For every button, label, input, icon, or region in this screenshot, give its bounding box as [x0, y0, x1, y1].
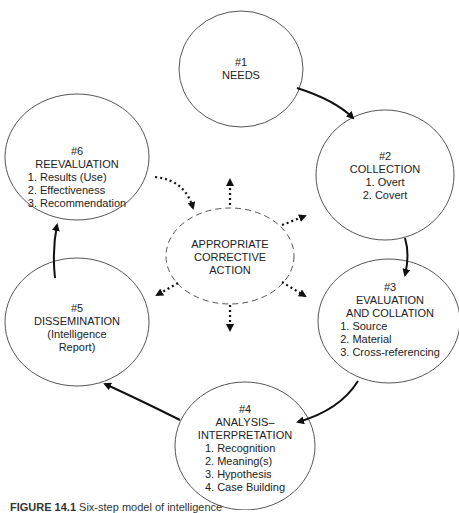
evaluation-item: 2. Material — [340, 333, 440, 346]
needs-label: #1 NEEDS — [191, 56, 291, 82]
dissemination-sub-1: (Intelligence — [27, 328, 127, 341]
dotted-arrow-upright — [282, 216, 305, 225]
dotted-arrow-reevaluation-to-center — [155, 177, 193, 208]
analysis-title-2: INTERPRETATION — [185, 429, 305, 442]
collection-label: #2 COLLECTION 1. Overt 2. Covert — [335, 150, 435, 202]
arrow-needs-to-collection — [297, 88, 353, 118]
analysis-title-1: ANALYSIS– — [185, 416, 305, 429]
evaluation-label: #3 EVALUATION AND COLLATION 1. Source 2.… — [320, 281, 459, 359]
analysis-item: 1. Recognition — [205, 442, 285, 455]
dissemination-sub-2: Report) — [27, 341, 127, 354]
evaluation-title-2: AND COLLATION — [320, 307, 459, 320]
collection-title: COLLECTION — [335, 163, 435, 176]
analysis-item: 3. Hypothesis — [205, 468, 285, 481]
collection-number: #2 — [335, 150, 435, 163]
center-line-1: APPROPRIATE — [180, 238, 280, 251]
reevaluation-label: #6 REEVALUATION 1. Results (Use) 2. Effe… — [17, 145, 137, 210]
reevaluation-item: 3. Recommendation — [28, 197, 126, 210]
corrective-action-label: APPROPRIATE CORRECTIVE ACTION — [180, 238, 280, 277]
analysis-item: 4. Case Building — [205, 481, 285, 494]
reevaluation-item: 2. Effectiveness — [28, 184, 126, 197]
reevaluation-number: #6 — [17, 145, 137, 158]
needs-title: NEEDS — [191, 69, 291, 82]
dissemination-label: #5 DISSEMINATION (Intelligence Report) — [27, 302, 127, 354]
figure-caption: FIGURE 14.1 Six-step model of intelligen… — [10, 501, 222, 513]
analysis-label: #4 ANALYSIS– INTERPRETATION 1. Recogniti… — [185, 403, 305, 494]
evaluation-number: #3 — [320, 281, 459, 294]
figure-label: FIGURE 14.1 — [10, 501, 76, 513]
center-line-2: CORRECTIVE — [180, 251, 280, 264]
analysis-number: #4 — [185, 403, 305, 416]
analysis-item: 2. Meaning(s) — [205, 455, 285, 468]
dissemination-title: DISSEMINATION — [27, 315, 127, 328]
arrow-analysis-to-dissemination — [105, 384, 180, 420]
needs-number: #1 — [191, 56, 291, 69]
reevaluation-title: REEVALUATION — [17, 158, 137, 171]
evaluation-item: 3. Cross-referencing — [340, 346, 440, 359]
collection-item: 2. Covert — [335, 189, 435, 202]
evaluation-item: 1. Source — [340, 320, 440, 333]
center-line-3: ACTION — [180, 264, 280, 277]
dotted-arrow-downright — [282, 282, 305, 296]
evaluation-title-1: EVALUATION — [320, 294, 459, 307]
arrow-dissemination-to-reevaluation — [54, 225, 57, 278]
collection-item: 1. Overt — [335, 176, 435, 189]
dotted-arrow-downleft — [157, 283, 178, 295]
figure-text: Six-step model of intelligence — [79, 501, 222, 513]
arrow-collection-to-evaluation — [405, 238, 408, 275]
reevaluation-item: 1. Results (Use) — [28, 171, 126, 184]
dissemination-number: #5 — [27, 302, 127, 315]
